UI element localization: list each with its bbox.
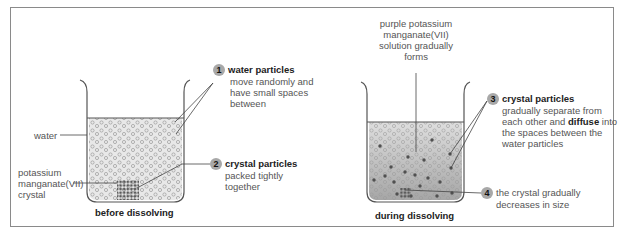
callout-3-crystal-particles: 3crystal particles gradually separate fr… [487, 93, 617, 149]
beaker-before [80, 80, 190, 202]
callout-1-water-particles: 1water particles move randomly and have … [213, 64, 313, 109]
label-potassium-manganate-crystal: potassium manganate(VII) crystal [18, 167, 83, 200]
callout-4-crystal-decreases: 4the crystal gradually decreases in size [481, 187, 580, 210]
callout-2-crystal-particles: 2crystal particles packed tightly togeth… [210, 158, 297, 192]
label-purple-solution: purple potassium manganate(VII) solution… [366, 18, 466, 62]
shrinking-crystal [400, 188, 411, 198]
beaker-during [361, 82, 470, 202]
number-badge-1: 1 [213, 64, 225, 76]
number-badge-3: 3 [487, 93, 499, 105]
crystal-lattice [117, 180, 139, 200]
number-badge-2: 2 [210, 158, 222, 170]
caption-during-dissolving: during dissolving [375, 210, 454, 221]
label-water: water [34, 130, 57, 141]
caption-before-dissolving: before dissolving [95, 207, 174, 218]
number-badge-4: 4 [481, 187, 493, 199]
